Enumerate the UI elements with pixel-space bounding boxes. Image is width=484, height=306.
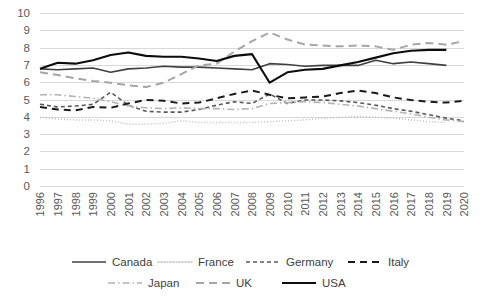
x-tick-label: 2004	[176, 192, 188, 216]
x-tick-label: 2017	[405, 192, 417, 216]
y-tick-label: 2	[24, 145, 30, 157]
x-tick-label: 2008	[246, 192, 258, 216]
y-tick-label: 10	[17, 7, 30, 19]
legend-label-uk: UK	[236, 277, 252, 289]
chart-canvas: 0123456789101996199719981999200020012002…	[0, 0, 484, 306]
x-tick-label: 1999	[87, 192, 99, 216]
x-tick-label: 2003	[158, 192, 170, 216]
x-tick-label: 1997	[52, 192, 64, 216]
y-tick-label: 4	[24, 111, 31, 123]
x-tick-label: 2000	[105, 192, 117, 216]
x-tick-label: 1998	[70, 192, 82, 216]
y-tick-label: 7	[24, 59, 30, 71]
x-axis-labels: 1996199719981999200020012002200320042005…	[34, 192, 470, 216]
y-tick-label: 0	[24, 180, 30, 192]
series-line-usa	[40, 50, 446, 83]
line-chart: 0123456789101996199719981999200020012002…	[0, 0, 484, 306]
x-tick-label: 2015	[370, 192, 382, 216]
x-tick-label: 2007	[229, 192, 241, 216]
x-tick-label: 2019	[441, 192, 453, 216]
x-tick-label: 2005	[193, 192, 205, 216]
series-line-uk	[40, 33, 464, 88]
y-tick-label: 9	[24, 24, 30, 36]
x-tick-label: 2009	[264, 192, 276, 216]
legend: CanadaFranceGermanyItalyJapanUKUSA	[72, 256, 409, 289]
series-group	[40, 33, 464, 125]
x-tick-label: 2010	[282, 192, 294, 216]
y-tick-label: 5	[24, 94, 30, 106]
x-tick-label: 2016	[388, 192, 400, 216]
x-tick-label: 2001	[123, 192, 135, 216]
y-axis-labels: 012345678910	[17, 7, 30, 192]
x-tick-label: 2012	[317, 192, 329, 216]
x-tick-label: 1996	[34, 192, 46, 216]
x-tick-label: 2020	[458, 192, 470, 216]
legend-label-canada: Canada	[112, 256, 153, 268]
x-tick-label: 2014	[352, 192, 364, 216]
x-tick-label: 2018	[423, 192, 435, 216]
series-line-canada	[40, 60, 446, 72]
legend-label-germany: Germany	[286, 256, 334, 268]
y-tick-label: 8	[24, 42, 30, 54]
x-tick-label: 2011	[299, 192, 311, 216]
x-tick-label: 2002	[140, 192, 152, 216]
legend-label-italy: Italy	[388, 256, 409, 268]
x-tick-label: 2006	[211, 192, 223, 216]
x-tick-label: 2013	[335, 192, 347, 216]
y-tick-label: 6	[24, 76, 30, 88]
legend-label-japan: Japan	[148, 277, 179, 289]
legend-label-france: France	[198, 256, 234, 268]
y-tick-label: 1	[24, 163, 30, 175]
legend-label-usa: USA	[322, 277, 346, 289]
y-tick-label: 3	[24, 128, 30, 140]
